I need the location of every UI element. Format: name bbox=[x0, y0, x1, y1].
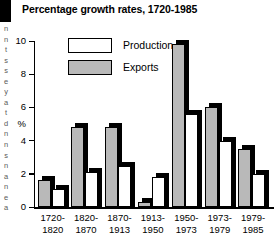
bar-production[interactable] bbox=[152, 177, 165, 207]
y-axis-tick-label: 0 bbox=[4, 202, 26, 212]
page-edge-black-block bbox=[0, 0, 11, 22]
bar-exports[interactable] bbox=[172, 44, 185, 207]
bar-exports[interactable] bbox=[205, 107, 218, 207]
bar-exports[interactable] bbox=[71, 127, 84, 207]
y-axis-tick-label: 8 bbox=[4, 69, 26, 79]
bar-exports[interactable] bbox=[38, 180, 51, 207]
bar-production[interactable] bbox=[252, 174, 265, 207]
y-axis-tick-label: 4 bbox=[4, 136, 26, 146]
bar-exports[interactable] bbox=[138, 202, 151, 207]
bar-group bbox=[138, 41, 171, 207]
bar-group bbox=[38, 41, 71, 207]
bar-group bbox=[105, 41, 138, 207]
bar-exports[interactable] bbox=[105, 127, 118, 207]
bar-group bbox=[71, 41, 104, 207]
bar-production[interactable] bbox=[85, 172, 98, 207]
bar-production[interactable] bbox=[52, 189, 65, 207]
x-axis-line bbox=[34, 207, 274, 209]
bar-production[interactable] bbox=[185, 114, 198, 207]
page-title: Percentage growth rates, 1720-1985 bbox=[22, 3, 197, 15]
y-axis-title: % bbox=[4, 119, 26, 129]
bar-production[interactable] bbox=[118, 166, 131, 208]
y-axis-tick-label: 10 bbox=[4, 36, 26, 46]
x-axis-tick-label-line: 1985 bbox=[232, 224, 273, 236]
y-axis-tick-label: 2 bbox=[4, 169, 26, 179]
bar-production[interactable] bbox=[219, 141, 232, 207]
bar-group bbox=[238, 41, 271, 207]
bar-group bbox=[205, 41, 238, 207]
x-axis-tick-label: 1979-1985 bbox=[232, 212, 273, 235]
bar-group bbox=[172, 41, 205, 207]
x-axis-tick-label-line: 1979- bbox=[232, 212, 273, 224]
bar-exports[interactable] bbox=[238, 149, 251, 207]
y-axis-tick-label: 6 bbox=[4, 102, 26, 112]
plot-area bbox=[34, 41, 272, 207]
